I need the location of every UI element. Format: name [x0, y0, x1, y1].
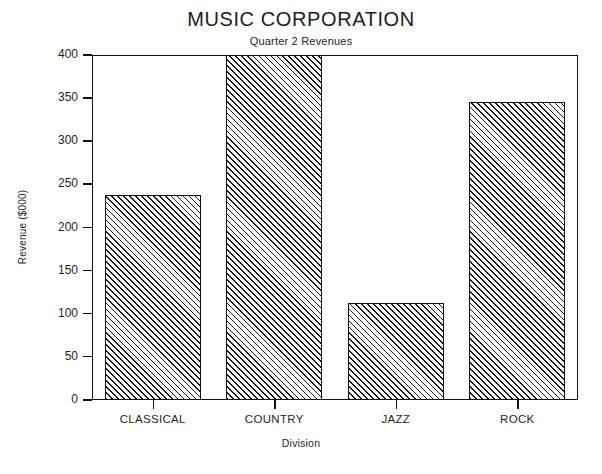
y-axis-title: Revenue ($000) — [17, 190, 28, 265]
y-tick-label: 150 — [58, 263, 78, 277]
y-axis: 050100150200250300350400 — [0, 0, 92, 474]
y-tick-mark — [83, 356, 92, 358]
x-tick-mark — [274, 400, 276, 409]
y-tick-label: 400 — [58, 47, 78, 61]
y-tick-label: 200 — [58, 220, 78, 234]
x-tick-mark — [396, 400, 398, 409]
bars-group — [92, 55, 578, 400]
bar-chart: MUSIC CORPORATION Quarter 2 Revenues 050… — [0, 0, 602, 474]
y-tick-label: 250 — [58, 176, 78, 190]
x-tick-label: CLASSICAL — [120, 413, 186, 425]
y-tick-mark — [83, 270, 92, 272]
y-tick-label: 350 — [58, 90, 78, 104]
x-tick-label: ROCK — [500, 413, 534, 425]
x-tick-label: COUNTRY — [245, 413, 304, 425]
y-tick-mark — [83, 399, 92, 401]
bar — [226, 55, 322, 400]
y-tick-mark — [83, 313, 92, 315]
y-tick-mark — [83, 227, 92, 229]
y-tick-label: 0 — [71, 392, 78, 406]
x-tick-mark — [153, 400, 155, 409]
y-tick-mark — [83, 183, 92, 185]
y-tick-mark — [83, 97, 92, 99]
bar — [469, 102, 565, 400]
x-axis: CLASSICALCOUNTRYJAZZROCK — [92, 400, 578, 460]
bar — [348, 303, 444, 400]
x-tick-mark — [517, 400, 519, 409]
y-tick-mark — [83, 54, 92, 56]
bar — [105, 195, 201, 400]
y-tick-mark — [83, 140, 92, 142]
x-axis-title: Division — [0, 437, 602, 449]
y-tick-label: 300 — [58, 133, 78, 147]
y-tick-label: 50 — [65, 349, 78, 363]
x-tick-label: JAZZ — [381, 413, 410, 425]
y-tick-label: 100 — [58, 306, 78, 320]
